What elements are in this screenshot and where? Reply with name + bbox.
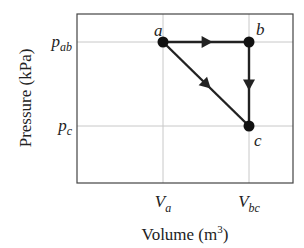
point-label-c: c (254, 131, 262, 150)
point-label-b: b (256, 20, 265, 39)
pv-diagram: abc VaVbcpabpc Pressure (kPa) Volume (m3… (0, 0, 304, 248)
y-tick-pc: pc (57, 116, 73, 138)
point-c (244, 121, 255, 132)
arrow-a-to-b (202, 36, 213, 48)
process-paths (163, 36, 255, 126)
x-axis-title: Volume (m3) (142, 223, 229, 244)
grid (77, 14, 293, 183)
point-b (244, 37, 255, 48)
plot-frame (77, 14, 293, 183)
arrow-b-to-c (243, 80, 255, 91)
y-tick-pab: pab (51, 32, 73, 54)
x-tick-Va: Va (155, 192, 171, 215)
x-axis-title-close: ) (223, 225, 229, 244)
x-tick-Vbc: Vbc (238, 192, 260, 215)
point-label-a: a (154, 21, 163, 40)
x-axis-title-text: Volume (m (142, 225, 218, 244)
y-axis-title: Pressure (kPa) (16, 49, 35, 148)
axis-ticks: VaVbcpabpc (51, 32, 261, 215)
